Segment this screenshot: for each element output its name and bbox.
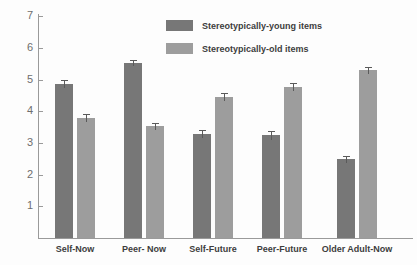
- y-axis-tick-label-wrap: 3: [0, 137, 33, 148]
- y-axis-tick-label: 1: [3, 200, 33, 211]
- y-axis-tick-label-wrap: 6: [0, 42, 33, 53]
- legend-item-young: Stereotypically-young items: [166, 17, 322, 34]
- error-bar-old-4: [293, 83, 294, 91]
- y-axis-tick: [38, 175, 43, 176]
- bar-young-4: [262, 135, 280, 238]
- chart-legend: Stereotypically-young items Stereotypica…: [166, 17, 322, 63]
- y-axis-tick-label-wrap: 7: [0, 10, 33, 21]
- y-axis-tick-label: 3: [3, 137, 33, 148]
- y-axis-tick-label: 5: [3, 74, 33, 85]
- legend-label-old: Stereotypically-old items: [202, 44, 309, 54]
- error-bar-cap-top-old-4: [290, 83, 297, 84]
- error-bar-cap-top-young-5: [343, 156, 350, 157]
- error-bar-cap-top-young-1: [61, 80, 68, 81]
- error-bar-cap-top-old-3: [221, 93, 228, 94]
- legend-label-young: Stereotypically-young items: [202, 21, 322, 31]
- bar-young-1: [55, 84, 73, 238]
- y-axis-tick-label-wrap: 1: [0, 200, 33, 211]
- y-axis-tick-label: 7: [3, 10, 33, 21]
- error-bar-cap-top-old-1: [83, 114, 90, 115]
- error-bar-old-1: [86, 114, 87, 122]
- y-axis-tick-label: 2: [3, 169, 33, 180]
- error-bar-cap-top-young-2: [130, 60, 137, 61]
- legend-item-old: Stereotypically-old items: [166, 40, 322, 57]
- bar-old-1: [77, 118, 95, 238]
- error-bar-cap-top-young-4: [268, 131, 275, 132]
- x-axis-line: [38, 238, 413, 239]
- error-bar-young-3: [202, 130, 203, 138]
- error-bar-old-2: [155, 123, 156, 130]
- legend-swatch-old-icon: [166, 43, 193, 54]
- y-axis-tick-label-wrap: 2: [0, 169, 33, 180]
- error-bar-young-5: [346, 156, 347, 164]
- y-axis-tick-label-wrap: 4: [0, 105, 33, 116]
- y-axis-tick: [38, 16, 43, 17]
- error-bar-young-4: [271, 131, 272, 141]
- bar-old-2: [146, 126, 164, 238]
- y-axis-tick: [38, 143, 43, 144]
- y-axis-tick-label-wrap: 5: [0, 74, 33, 85]
- y-axis-tick-label: 4: [3, 105, 33, 116]
- bar-young-5: [337, 159, 355, 238]
- bar-young-3: [193, 134, 211, 238]
- bar-young-2: [124, 63, 142, 238]
- y-axis-tick-label: 6: [3, 42, 33, 53]
- bar-chart: 1234567 Self-NowPeer- NowSelf-FuturePeer…: [0, 0, 417, 265]
- bar-old-5: [359, 70, 377, 238]
- bar-old-4: [284, 87, 302, 238]
- error-bar-old-3: [224, 93, 225, 101]
- error-bar-cap-top-old-5: [365, 67, 372, 68]
- error-bar-cap-top-young-3: [199, 130, 206, 131]
- error-bar-young-1: [64, 80, 65, 88]
- y-axis-tick: [38, 48, 43, 49]
- legend-swatch-young-icon: [166, 20, 193, 31]
- y-axis-tick: [38, 111, 43, 112]
- bar-old-3: [215, 97, 233, 238]
- y-axis-tick: [38, 206, 43, 207]
- y-axis-tick: [38, 80, 43, 81]
- error-bar-cap-top-old-2: [152, 123, 159, 124]
- category-label-5: Older Adult-Now: [297, 243, 417, 255]
